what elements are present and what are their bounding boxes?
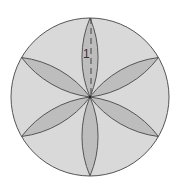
- petal-circle-diagram: 1: [0, 0, 179, 185]
- center-point: [89, 96, 92, 99]
- radius-label: 1: [83, 47, 90, 61]
